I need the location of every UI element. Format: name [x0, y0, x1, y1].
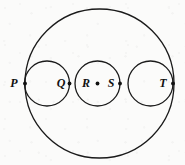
point-label-s: S — [108, 76, 115, 90]
point-dot-p — [23, 82, 27, 86]
point-label-r: R — [81, 76, 90, 90]
point-label-t: T — [159, 76, 167, 90]
point-dot-r — [96, 82, 100, 86]
outer-circle-group — [25, 9, 174, 158]
point-dot-t — [171, 82, 175, 86]
circles-diagram: P Q R S T — [0, 0, 185, 165]
point-dot-s — [118, 82, 122, 86]
figure-container: P Q R S T — [0, 0, 185, 165]
point-label-q: Q — [57, 76, 66, 90]
labels-group: P Q R S T — [10, 76, 167, 90]
point-label-p: P — [10, 76, 18, 90]
point-dot-q — [68, 82, 72, 86]
points-group — [23, 82, 175, 86]
outer-circle — [25, 9, 174, 158]
